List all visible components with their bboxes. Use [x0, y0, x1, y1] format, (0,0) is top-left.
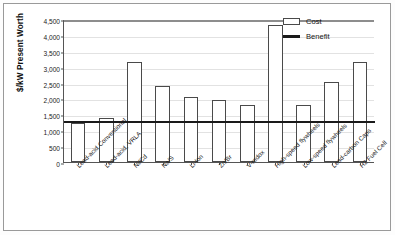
y-axis-tick-label: 1,500	[22, 113, 60, 120]
benefit-reference-line	[64, 121, 375, 123]
y-axis-tick-label: 0	[22, 161, 60, 168]
y-axis-tick-label: 3,000	[22, 65, 60, 72]
bar	[240, 105, 255, 162]
y-axis-tick-label: 4,000	[22, 33, 60, 40]
legend-item-benefit: Benefit	[283, 29, 379, 44]
legend-label-benefit: Benefit	[306, 32, 330, 41]
bar-slot	[149, 21, 177, 162]
y-axis-tick-label: 2,000	[22, 97, 60, 104]
y-axis-tick-label: 500	[22, 145, 60, 152]
bar	[212, 100, 227, 162]
legend-label-cost: Cost	[306, 17, 322, 26]
y-axis-tick-label: 1,000	[22, 129, 60, 136]
y-axis-tick-label: 4,500	[22, 18, 60, 25]
bar	[268, 25, 283, 162]
chart-legend: Cost Benefit	[283, 14, 379, 44]
chart-container: $/kW Present Worth 4,5004,0003,5003,0002…	[0, 0, 395, 235]
bar	[184, 97, 199, 162]
legend-item-cost: Cost	[283, 14, 379, 29]
x-axis-labels: Lead-acid ConventionalLead-acid, VRLANi/…	[63, 164, 374, 232]
bar-slot	[177, 21, 205, 162]
bar-slot	[64, 21, 92, 162]
bar-slot	[233, 21, 261, 162]
legend-swatch-cost-icon	[283, 18, 300, 25]
legend-swatch-benefit-icon	[283, 35, 300, 37]
y-axis-tick-label: 2,500	[22, 81, 60, 88]
bar-slot	[205, 21, 233, 162]
y-axis-tick-label: 3,500	[22, 49, 60, 56]
bar	[155, 86, 170, 162]
